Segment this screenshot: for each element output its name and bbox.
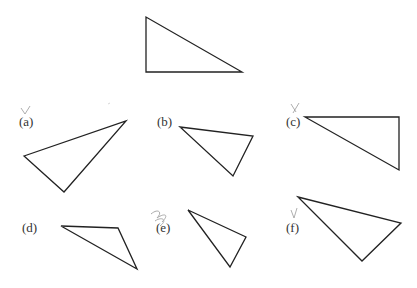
check-mark-f-icon <box>291 208 297 218</box>
option-label-f: (f) <box>286 221 299 234</box>
reference-triangle <box>146 17 242 72</box>
stray-mark-icon <box>108 103 110 104</box>
option-triangle-d <box>61 226 137 269</box>
option-triangle-f <box>298 197 401 261</box>
check-mark-a-icon <box>21 106 30 114</box>
triangle-drawing <box>0 0 417 288</box>
option-label-e: (e) <box>156 221 170 234</box>
option-label-d: (d) <box>22 221 37 234</box>
option-triangle-b <box>180 127 253 176</box>
option-triangle-c <box>305 117 399 170</box>
option-triangle-e <box>188 210 246 267</box>
option-label-b: (b) <box>157 115 172 128</box>
check-mark-c-icon <box>291 103 299 113</box>
option-label-a: (a) <box>19 115 33 128</box>
option-triangle-a <box>24 121 126 192</box>
triangle-figure: (a) (b) (c) (d) (e) (f) <box>0 0 417 288</box>
option-label-c: (c) <box>286 115 300 128</box>
